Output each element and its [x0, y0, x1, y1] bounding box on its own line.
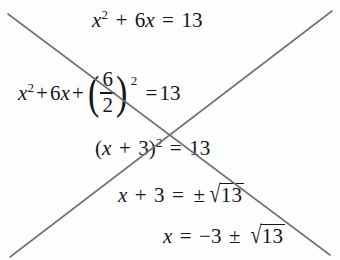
exponent-2: 2 — [156, 135, 163, 150]
right-hand-side-13: 13 — [181, 8, 202, 32]
radical-sign-icon: √ — [209, 183, 220, 207]
exponent-2: 2 — [27, 80, 34, 95]
equals-operator: = — [160, 8, 176, 32]
equals-operator: = — [178, 224, 194, 248]
negative-three: −3 — [199, 224, 222, 248]
right-hand-side-13: 13 — [159, 81, 180, 106]
square-root-of-13: √13 — [208, 183, 244, 207]
plus-minus-sign: ± — [227, 224, 243, 248]
variable-x: x — [102, 136, 111, 160]
equation-line-4: x + 3 = ±√13 — [118, 183, 244, 208]
square-root-of-13: √13 — [249, 224, 285, 248]
exponent-2: 2 — [101, 7, 108, 22]
plus-operator: + — [133, 183, 149, 207]
radical-sign-icon: √ — [250, 224, 261, 248]
open-paren: ( — [88, 74, 99, 112]
equation-line-5: x = −3 ± √13 — [163, 224, 285, 249]
close-paren: ) — [116, 74, 127, 112]
x-cross-out-overlay — [0, 0, 340, 260]
term-x-squared: x2 — [18, 81, 34, 106]
fraction-numerator: 6 — [101, 69, 116, 91]
strike-line-up-right — [10, 11, 332, 257]
variable-x: x — [92, 8, 101, 32]
fraction-denominator: 2 — [101, 95, 116, 117]
equation-line-1: x2 + 6x = 13 — [92, 8, 203, 33]
radicand-13: 13 — [261, 224, 285, 248]
variable-x: x — [18, 81, 27, 105]
equals-operator: = — [143, 81, 159, 106]
math-worksheet-canvas: x2 + 6x = 13 x2 + 6x + ( 6 2 ) 2 = 13 (x… — [0, 0, 340, 260]
variable-x: x — [61, 81, 70, 105]
close-paren: ) — [149, 136, 156, 160]
variable-x: x — [163, 224, 172, 248]
coefficient-6: 6 — [50, 81, 61, 105]
plus-operator: + — [117, 136, 133, 160]
plus-minus-sign: ± — [191, 183, 207, 207]
strike-line-down-right — [8, 14, 330, 255]
right-hand-side-13: 13 — [189, 136, 210, 160]
equals-operator: = — [170, 183, 186, 207]
plus-operator: + — [113, 8, 129, 32]
variable-x: x — [145, 8, 154, 32]
equation-line-3: (x + 3)2 = 13 — [95, 136, 210, 161]
exponent-2: 2 — [131, 73, 138, 89]
radicand-13: 13 — [220, 183, 244, 207]
equation-line-2: x2 + 6x + ( 6 2 ) 2 = 13 — [18, 66, 181, 120]
constant-3: 3 — [138, 136, 149, 160]
equals-operator: = — [168, 136, 184, 160]
plus-operator: + — [70, 81, 86, 106]
parenthesized-fraction-group: ( 6 2 ) 2 — [86, 69, 137, 116]
constant-3: 3 — [154, 183, 165, 207]
fraction-six-over-two: 6 2 — [100, 69, 115, 116]
coefficient-6: 6 — [135, 8, 146, 32]
variable-x: x — [118, 183, 127, 207]
plus-operator: + — [34, 81, 50, 106]
term-6x: 6x — [50, 81, 70, 106]
